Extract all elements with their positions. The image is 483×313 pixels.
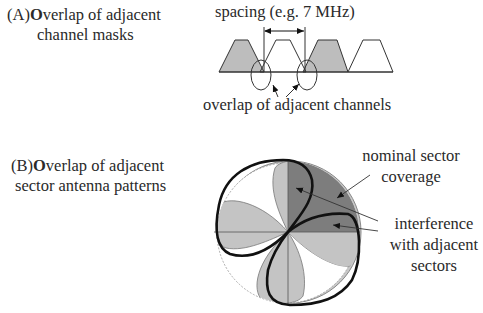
sector-diagram: [214, 160, 361, 305]
channel-mask-2: [260, 40, 306, 72]
diagram-canvas: [0, 0, 483, 313]
channel-mask-4: [348, 40, 393, 72]
overlap-arrow-1: [273, 85, 278, 97]
channel-mask-1: [219, 40, 264, 72]
nominal-sector: [288, 161, 359, 232]
overlap-circle-1: [251, 60, 271, 90]
channel-mask-3: [303, 40, 348, 72]
overlap-arrow-2: [286, 84, 299, 97]
channel-masks: [219, 40, 393, 72]
